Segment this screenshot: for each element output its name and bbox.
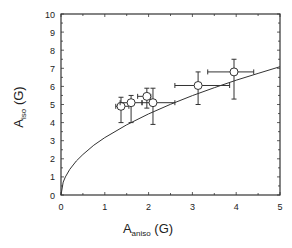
y-tick-label: 1: [50, 172, 55, 182]
x-tick-label: 0: [58, 202, 63, 212]
chart-svg: 012345012345678910 Aaniso (G) Aiso (G): [0, 0, 292, 248]
data-point: [138, 88, 151, 108]
data-point: [208, 59, 254, 99]
y-tick-label: 5: [50, 100, 55, 110]
x-tick-label: 4: [234, 202, 239, 212]
y-tick-label: 6: [50, 82, 55, 92]
y-tick-label: 2: [50, 154, 55, 164]
y-axis-label: Aiso (G): [11, 86, 28, 127]
data-points: [116, 59, 254, 124]
open-circle-marker: [117, 102, 125, 110]
y-tick-label: 9: [50, 28, 55, 38]
fit-line: [61, 67, 280, 195]
axis-labels: Aaniso (G) Aiso (G): [11, 86, 173, 238]
x-unit: (G): [151, 221, 173, 236]
axis-ticks: 012345012345678910: [45, 10, 283, 213]
y-tick-label: 4: [50, 118, 55, 128]
chart: 012345012345678910 Aaniso (G) Aiso (G): [0, 0, 292, 248]
x-tick-label: 3: [190, 202, 195, 212]
open-circle-marker: [143, 92, 151, 100]
y-tick-label: 0: [50, 191, 55, 201]
open-circle-marker: [194, 81, 202, 89]
x-axis-label: Aaniso (G): [123, 221, 173, 238]
x-tick-label: 2: [146, 202, 151, 212]
y-tick-label: 10: [45, 10, 55, 20]
open-circle-marker: [149, 99, 157, 107]
y-tick-label: 3: [50, 136, 55, 146]
open-circle-marker: [230, 68, 238, 76]
open-circle-marker: [127, 99, 135, 107]
y-tick-label: 7: [50, 64, 55, 74]
fit-curve: [61, 67, 280, 195]
x-tick-label: 5: [277, 202, 282, 212]
x-tick-label: 1: [102, 202, 107, 212]
y-tick-label: 8: [50, 46, 55, 56]
